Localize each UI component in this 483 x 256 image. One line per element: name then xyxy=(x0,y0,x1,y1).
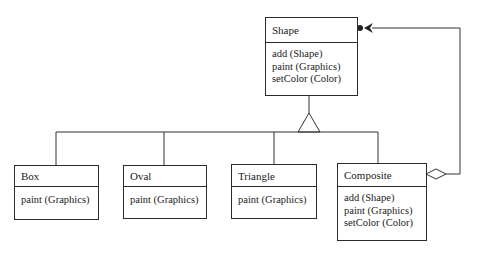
operation: paint (Graphics) xyxy=(21,194,92,207)
operation: paint (Graphics) xyxy=(130,194,200,207)
class-triangle: Triangle paint (Graphics) xyxy=(231,164,317,219)
operation: paint (Graphics) xyxy=(238,194,310,207)
class-shape: Shape add (Shape) paint (Graphics) setCo… xyxy=(265,17,358,96)
class-name: Composite xyxy=(338,164,426,187)
operation: paint (Graphics) xyxy=(272,61,351,74)
class-name: Triangle xyxy=(232,165,316,187)
class-operations: paint (Graphics) xyxy=(124,187,206,212)
operation: paint (Graphics) xyxy=(344,205,420,218)
operation: add (Shape) xyxy=(272,48,351,61)
class-name: Shape xyxy=(266,18,357,43)
class-oval: Oval paint (Graphics) xyxy=(123,165,207,219)
inheritance-triangle-icon xyxy=(298,113,320,132)
aggregation-line xyxy=(372,28,460,174)
class-operations: add (Shape) paint (Graphics) setColor (C… xyxy=(338,187,426,235)
class-operations: paint (Graphics) xyxy=(232,187,316,212)
class-operations: paint (Graphics) xyxy=(15,187,98,212)
operation: setColor (Color) xyxy=(272,73,351,86)
class-box: Box paint (Graphics) xyxy=(14,165,99,220)
aggregation-diamond-icon xyxy=(426,169,446,179)
class-operations: add (Shape) paint (Graphics) setColor (C… xyxy=(266,43,357,91)
class-name: Box xyxy=(15,166,98,187)
operation: add (Shape) xyxy=(344,192,420,205)
operation: setColor (Color) xyxy=(344,217,420,230)
class-composite: Composite add (Shape) paint (Graphics) s… xyxy=(337,163,427,241)
class-name: Oval xyxy=(124,166,206,187)
arrowhead-icon xyxy=(364,23,373,33)
